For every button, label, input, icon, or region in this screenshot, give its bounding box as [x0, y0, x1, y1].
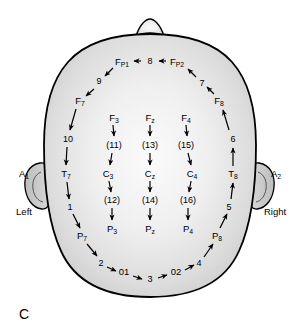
head-outline: [44, 34, 256, 297]
eeg-electrode-diagram: FP1FP2F7F8F3FzF4T7T8C3CzC4P7P8P3PzP40102…: [0, 0, 299, 331]
bracket-number-b14: (14): [142, 195, 158, 205]
electrode-label-f3: F3: [109, 113, 119, 123]
ear-label-a1: A1: [19, 169, 29, 179]
electrode-label-fp2: FP2: [170, 57, 184, 67]
electrode-label-fz: Fz: [145, 113, 154, 123]
bracket-number-b16: (16): [180, 195, 196, 205]
bracket-number-b11: (11): [106, 140, 121, 150]
sequence-number-1: 1: [67, 202, 72, 212]
sequence-number-10: 10: [63, 134, 73, 144]
electrode-label-fp1: FP1: [115, 57, 129, 67]
sequence-number-6: 6: [230, 134, 235, 144]
side-label-right: Right: [264, 206, 286, 217]
electrode-label-f4: F4: [181, 113, 191, 123]
electrode-label-o2: 02: [171, 267, 182, 277]
electrode-label-c3: C3: [103, 169, 114, 179]
sequence-number-2: 2: [98, 258, 103, 268]
bracket-number-b13: (13): [142, 140, 158, 150]
sequence-number-3: 3: [147, 274, 152, 284]
bracket-number-b12: (12): [104, 195, 120, 205]
electrode-label-t7: T7: [61, 169, 71, 179]
electrode-label-pz: Pz: [145, 224, 155, 234]
electrode-label-o1: 01: [119, 267, 130, 277]
electrode-label-f8: F8: [214, 96, 224, 106]
electrode-label-c4: C4: [187, 169, 198, 179]
sequence-number-7: 7: [199, 78, 204, 88]
electrode-label-p3: P3: [107, 224, 117, 234]
electrode-label-cz: Cz: [145, 169, 155, 179]
ear-label-a2: A2: [271, 169, 281, 179]
bracket-number-b15: (15): [178, 140, 194, 150]
panel-letter: C: [19, 306, 29, 322]
sequence-number-9: 9: [96, 76, 101, 86]
electrode-label-p7: P7: [77, 231, 87, 241]
sequence-number-8: 8: [147, 56, 152, 66]
side-label-left: Left: [16, 206, 32, 217]
sequence-number-5: 5: [226, 202, 231, 212]
sequence-number-4: 4: [196, 258, 201, 268]
electrode-label-p8: P8: [212, 231, 222, 241]
electrode-label-f7: F7: [75, 96, 85, 106]
electrode-label-p4: P4: [183, 224, 193, 234]
electrode-label-t8: T8: [228, 169, 238, 179]
